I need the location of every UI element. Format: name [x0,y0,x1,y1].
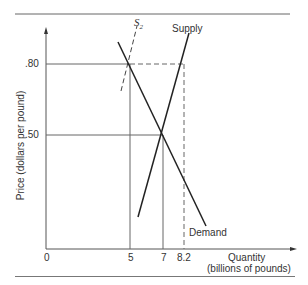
x-axis-arrow-icon [290,247,297,251]
s2-label-sub: 2 [140,23,144,31]
supply-label: Supply [172,24,203,34]
x-tick-7: 7 [161,253,167,263]
x-tick-5: 5 [128,253,134,263]
x-tick-82: 8.2 [177,253,191,263]
demand-curve [118,42,206,226]
demand-label: Demand [189,228,227,238]
s2-curve [121,26,137,91]
y-tick-50: .50 [25,130,39,140]
x-axis-label: Quantity [228,253,265,263]
s2-label: S2 [134,17,143,31]
y-axis-label: Price (dollars per pound) [15,86,26,206]
bottom-rule [15,276,295,277]
x-axis-sublabel: (billions of pounds) [207,264,291,274]
y-axis-arrow-icon [44,27,48,34]
y-tick-80: .80 [25,59,39,69]
x-tick-0: 0 [44,253,50,263]
supply-demand-chart [0,0,308,285]
